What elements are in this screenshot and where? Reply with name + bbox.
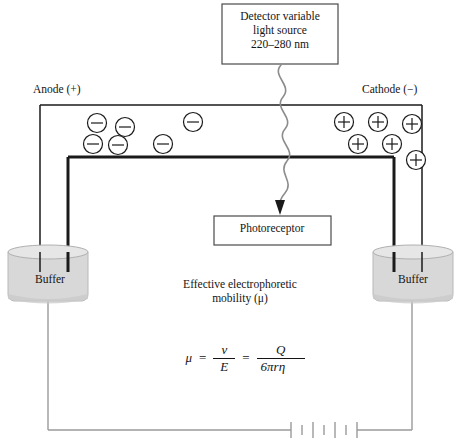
formula-fraction-2: Q 6πrη [257, 343, 305, 373]
beam-wave-path [278, 65, 289, 207]
mobility-caption-line-2: mobility (μ) [158, 291, 322, 305]
positive-ion [383, 135, 402, 154]
beam-arrowhead [275, 200, 285, 215]
positive-ion [335, 113, 354, 132]
negative-ion [184, 113, 203, 132]
vial-left-rim [8, 245, 88, 259]
formula-numerator-1: v [217, 343, 231, 358]
detector-line-1: Detector variable [225, 9, 335, 23]
negative-ion [88, 114, 107, 133]
vial-right-rim [373, 245, 453, 259]
negative-ion-group [84, 113, 203, 155]
negative-ion [154, 135, 173, 154]
anode-label: Anode (+) [33, 82, 81, 96]
detector-line-2: light source [225, 23, 335, 37]
photoreceptor-label: Photoreceptor [218, 221, 326, 235]
submerged-electrode-rods [40, 252, 422, 272]
positive-ion-group [335, 113, 426, 170]
detector-label: Detector variable light source 220–280 n… [225, 9, 335, 51]
mobility-caption-line-1: Effective electrophoretic [158, 277, 322, 291]
battery-symbol [291, 422, 357, 438]
diagram-canvas: Detector variable light source 220–280 n… [0, 0, 462, 448]
formula-numerator-2: Q [272, 343, 289, 358]
positive-ion [349, 135, 368, 154]
formula-denominator-1: E [216, 359, 232, 374]
detector-line-3: 220–280 nm [225, 37, 335, 51]
negative-ion [116, 118, 135, 137]
formula-denominator-2: 6πrη [257, 359, 305, 374]
mobility-formula: μ = v E = Q 6πrη [160, 336, 330, 380]
formula-equals-2: = [242, 350, 249, 366]
negative-ion [84, 135, 103, 154]
formula-mu: μ [185, 350, 192, 366]
buffer-left-label: Buffer [12, 272, 88, 286]
negative-ion [109, 136, 128, 155]
formula-fraction-1: v E [213, 343, 235, 373]
mobility-caption: Effective electrophoretic mobility (μ) [158, 277, 322, 305]
light-beam [275, 65, 290, 215]
positive-ion [369, 113, 388, 132]
positive-ion [403, 115, 422, 134]
cathode-label: Cathode (−) [362, 82, 417, 96]
positive-ion [407, 151, 426, 170]
formula-equals-1: = [199, 350, 206, 366]
buffer-right-label: Buffer [375, 272, 451, 286]
